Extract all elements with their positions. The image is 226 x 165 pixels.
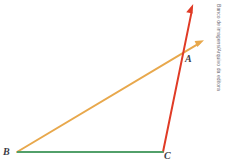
ray-ca-group [163, 4, 193, 152]
vertex-label-b: B [3, 147, 10, 157]
ray-ba-group [17, 40, 204, 152]
ray-ba-line [17, 43, 200, 152]
vertex-label-a: A [185, 54, 192, 64]
ray-ca-arrowhead [186, 4, 193, 14]
vertex-label-c: C [164, 151, 171, 161]
image-credit-text: Banco de imagens/Arquivo da editora [213, 4, 225, 162]
ray-ca-line [163, 13, 191, 152]
geometry-figure: A B C Banco de imagens/Arquivo da editor… [0, 0, 226, 165]
geometry-canvas [0, 0, 226, 165]
